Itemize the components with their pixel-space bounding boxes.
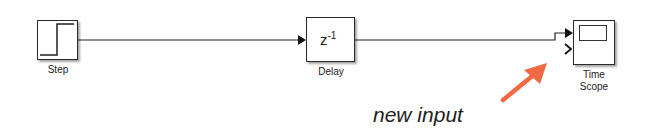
new-input-annotation: new input xyxy=(373,103,463,127)
arrowhead-icon xyxy=(298,35,306,45)
time-scope-label: Time Scope xyxy=(569,69,619,93)
delay-exponent-text: -1 xyxy=(328,30,337,41)
unconnected-input-port-icon[interactable] xyxy=(565,44,571,54)
delay-transfer-function: z-1 xyxy=(320,30,336,48)
delay-label: Delay xyxy=(305,66,357,78)
step-block[interactable] xyxy=(37,20,78,60)
delay-z-text: z xyxy=(320,31,328,48)
time-scope-label-line1: Time xyxy=(569,69,619,81)
signal-line-delay-to-scope[interactable] xyxy=(355,33,566,40)
delay-block[interactable]: z-1 xyxy=(306,17,355,62)
arrowhead-icon xyxy=(565,28,573,38)
step-icon xyxy=(38,21,76,58)
step-label: Step xyxy=(33,64,83,76)
scope-display-icon xyxy=(579,25,607,41)
simulink-diagram: Step z-1 Delay Time Scope new input xyxy=(0,0,650,132)
time-scope-block[interactable] xyxy=(573,20,615,65)
annotation-arrow-shaft xyxy=(503,73,536,100)
time-scope-label-line2: Scope xyxy=(569,81,619,93)
